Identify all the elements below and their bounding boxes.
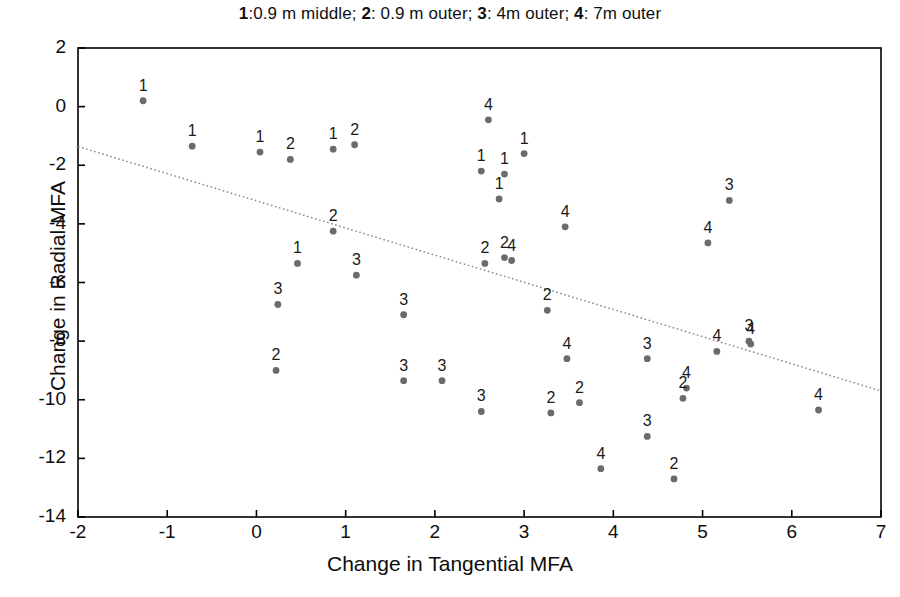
data-point-label: 3 [273,280,282,297]
y-axis-ticks [78,48,85,517]
y-tick-label: -14 [0,505,66,527]
data-point-label: 4 [562,335,571,352]
data-point [287,156,294,163]
data-point-label: 4 [596,445,605,462]
y-tick-label: -8 [0,329,66,351]
data-point [478,408,485,415]
x-tick-label: 4 [583,521,643,543]
data-point-label: 4 [746,320,755,337]
data-point [726,197,733,204]
data-point-label: 3 [438,357,447,374]
data-point [257,149,264,156]
x-tick-label: 5 [673,521,733,543]
data-point-label: 2 [286,135,295,152]
data-point [521,150,528,157]
data-point [496,196,503,203]
data-point-label: 4 [484,96,493,113]
data-point-label: 1 [477,147,486,164]
data-point [189,143,196,150]
y-tick-label: -4 [0,212,66,234]
data-point [705,240,712,247]
data-point [644,433,651,440]
data-point [562,223,569,230]
data-point-label: 3 [643,412,652,429]
data-point-label: 2 [546,389,555,406]
data-point-label: 1 [293,239,302,256]
data-point-label: 1 [500,150,509,167]
data-point-label: 3 [477,387,486,404]
trend-line [78,146,881,390]
data-point [330,146,337,153]
data-point-label: 2 [329,207,338,224]
x-axis-ticks [78,510,881,517]
x-tick-label: 1 [316,521,376,543]
data-point [400,377,407,384]
data-point [671,475,678,482]
data-point [400,311,407,318]
y-tick-label: 0 [0,95,66,117]
data-point-label: 3 [643,335,652,352]
data-point-label: 1 [256,128,265,145]
x-tick-label: 6 [762,521,822,543]
plot-canvas: 1111111112222222222233333333334444444444 [0,0,900,597]
data-point [140,97,147,104]
plot-frame [78,48,881,517]
y-tick-label: -10 [0,388,66,410]
data-point [294,260,301,267]
data-point [644,355,651,362]
data-point-label: 4 [814,386,823,403]
data-point-label: 2 [350,121,359,138]
data-point-label: 2 [272,346,281,363]
data-point [353,272,360,279]
data-point-label: 1 [520,130,529,147]
data-point-label: 1 [139,77,148,94]
scatter-plot-figure: 1:0.9 m middle; 2: 0.9 m outer; 3: 4m ou… [0,0,900,597]
data-point [680,395,687,402]
data-point [478,168,485,175]
data-point-label: 1 [188,122,197,139]
data-point [273,367,280,374]
data-point-label: 2 [575,379,584,396]
data-point [274,301,281,308]
data-point [713,348,720,355]
data-point-label: 4 [703,219,712,236]
data-point [330,228,337,235]
data-point [508,257,515,264]
data-point [564,355,571,362]
data-point-label: 1 [329,125,338,142]
data-point [501,254,508,261]
data-point [544,307,551,314]
y-tick-label: -12 [0,446,66,468]
data-point-label: 1 [495,175,504,192]
x-tick-label: -1 [137,521,197,543]
data-point [597,465,604,472]
data-point-label: 3 [352,251,361,268]
data-point-label: 4 [561,203,570,220]
y-tick-label: -6 [0,271,66,293]
data-point-label: 4 [682,364,691,381]
data-point-label: 4 [712,327,721,344]
data-point [547,410,554,417]
data-point-label: 2 [670,455,679,472]
x-axis-title: Change in Tangential MFA [0,552,900,576]
plot-frame-rect [78,48,881,517]
data-point-label: 3 [399,357,408,374]
data-point [439,377,446,384]
trend-line-path [78,146,881,390]
data-point [815,407,822,414]
data-point [576,399,583,406]
data-point-label: 3 [725,176,734,193]
x-tick-label: 0 [226,521,286,543]
data-point [485,116,492,123]
data-point [481,260,488,267]
data-point [747,341,754,348]
x-tick-label: 3 [494,521,554,543]
x-tick-label: 7 [851,521,900,543]
data-point-label: 2 [543,286,552,303]
y-tick-label: -2 [0,153,66,175]
data-point [351,141,358,148]
data-point-label: 4 [507,237,516,254]
x-tick-label: 2 [405,521,465,543]
data-point-label: 2 [480,239,489,256]
data-point-label: 3 [399,291,408,308]
